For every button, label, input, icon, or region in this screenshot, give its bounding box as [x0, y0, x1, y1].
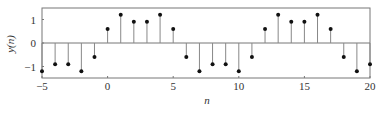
- stem-point: [263, 27, 267, 43]
- stem-point: [316, 13, 320, 43]
- stem-point: [79, 43, 83, 73]
- y-axis-label: y(n): [4, 35, 17, 54]
- stem-point: [92, 43, 96, 59]
- stem-point: [329, 27, 333, 43]
- y-tick-label: −1: [24, 61, 36, 73]
- stem-point: [158, 13, 162, 43]
- y-tick-label: 1: [31, 14, 37, 26]
- stem-point: [368, 43, 372, 66]
- stem-point: [342, 43, 346, 59]
- stem-point: [211, 43, 215, 66]
- stem-point: [40, 43, 44, 73]
- stem-point: [224, 43, 228, 66]
- stem-point: [171, 27, 175, 43]
- stem-point: [302, 20, 306, 43]
- stem-point: [184, 43, 188, 59]
- stem-point: [197, 43, 201, 73]
- stem-point: [119, 13, 123, 43]
- stem-point: [132, 20, 136, 43]
- x-tick-label: 10: [233, 80, 245, 92]
- stem-point: [237, 43, 241, 73]
- y-axis-ticks: −101: [24, 14, 44, 73]
- stem-point: [250, 43, 254, 59]
- stem-point: [66, 43, 70, 66]
- x-tick-label: 5: [170, 80, 176, 92]
- stem-point: [145, 20, 149, 43]
- x-tick-label: −5: [36, 80, 48, 92]
- x-tick-label: 0: [105, 80, 111, 92]
- stem-point: [53, 43, 57, 66]
- stem-point: [276, 13, 280, 43]
- x-axis-label: n: [204, 94, 210, 106]
- stem-plot: −505101520 −101 n y(n): [0, 0, 389, 113]
- y-tick-label: 0: [31, 37, 37, 49]
- stem-point: [355, 43, 359, 73]
- stem-point: [106, 27, 110, 43]
- x-tick-label: 20: [365, 80, 377, 92]
- x-tick-label: 15: [299, 80, 311, 92]
- stem-point: [289, 20, 293, 43]
